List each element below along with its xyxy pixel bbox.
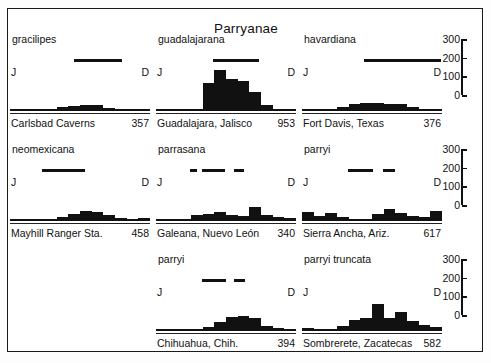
- locality-row: Guadalajara, Jalisco953: [156, 116, 296, 132]
- y-axis-tick: [462, 39, 467, 41]
- y-axis-line: [461, 259, 463, 315]
- y-axis-line: [461, 149, 463, 205]
- locality-row: Mayhill Ranger Sta.458: [10, 226, 150, 242]
- bloom-period-bar: [42, 169, 85, 172]
- species-name: guadalajarana: [158, 33, 225, 45]
- panel-divider: [156, 223, 296, 224]
- figure-plate: Parryanae gracilipesJDCarlsbad Caverns35…: [0, 0, 491, 363]
- record-count: 617: [423, 227, 441, 239]
- locality-row: Carlsbad Caverns357: [10, 116, 150, 132]
- y-axis-tick-label: 100: [442, 180, 460, 192]
- monthly-histogram: [156, 283, 296, 331]
- bloom-period-bar: [74, 59, 122, 62]
- y-axis-tick: [462, 76, 467, 78]
- locality-name: Sombrerete, Zacatecas: [303, 337, 412, 349]
- bloom-period-bar: [348, 169, 373, 172]
- y-axis-tick: [462, 168, 467, 170]
- species-name: gracilipes: [12, 33, 56, 45]
- y-axis-row-3: 3002001000: [432, 253, 486, 323]
- y-axis-tick-label: 200: [442, 162, 460, 174]
- bloom-period-bar: [202, 279, 226, 282]
- y-axis-row-1: 3002001000: [432, 33, 486, 103]
- panel-divider: [302, 333, 442, 334]
- histogram-panel: parryiJDSierra Ancha, Ariz.617: [302, 143, 442, 243]
- species-name: parryi: [158, 253, 184, 265]
- y-axis-line: [461, 39, 463, 95]
- histogram-baseline: [10, 109, 150, 111]
- histogram-panel: parryi truncataJDSombrerete, Zacatecas58…: [302, 253, 442, 353]
- record-count: 394: [277, 337, 295, 349]
- monthly-histogram: [156, 173, 296, 221]
- locality-row: Galeana, Nuevo León340: [156, 226, 296, 242]
- y-axis-tick-label: 300: [442, 253, 460, 265]
- histogram-baseline: [156, 219, 296, 221]
- bloom-period-bar: [234, 279, 245, 282]
- locality-row: Chihuahua, Chih.394: [156, 336, 296, 352]
- locality-name: Sierra Ancha, Ariz.: [303, 227, 389, 239]
- species-name: havardiana: [304, 33, 356, 45]
- record-count: 376: [423, 117, 441, 129]
- y-axis-tick: [462, 315, 467, 317]
- monthly-histogram: [302, 173, 442, 221]
- locality-row: Sierra Ancha, Ariz.617: [302, 226, 442, 242]
- y-axis-tick: [462, 205, 467, 207]
- histogram-baseline: [302, 219, 442, 221]
- monthly-histogram: [302, 63, 442, 111]
- locality-row: Sombrerete, Zacatecas582: [302, 336, 442, 352]
- bloom-period-bar: [234, 169, 244, 172]
- y-axis-tick-label: 200: [442, 272, 460, 284]
- y-axis-tick: [462, 296, 467, 298]
- bloom-period-bar: [364, 59, 440, 62]
- panel-divider: [10, 223, 150, 224]
- histogram-baseline: [156, 329, 296, 331]
- y-axis-tick-label: 0: [454, 309, 460, 321]
- monthly-histogram: [10, 173, 150, 221]
- y-axis-tick: [462, 186, 467, 188]
- monthly-histogram: [10, 63, 150, 111]
- y-axis-tick: [462, 149, 467, 151]
- histogram-panel: neomexicanaJDMayhill Ranger Sta.458: [10, 143, 150, 243]
- y-axis-tick-label: 100: [442, 70, 460, 82]
- y-axis-tick-label: 0: [454, 89, 460, 101]
- record-count: 357: [131, 117, 149, 129]
- record-count: 458: [131, 227, 149, 239]
- panel-divider: [302, 113, 442, 114]
- locality-name: Chihuahua, Chih.: [157, 337, 238, 349]
- histogram-baseline: [10, 219, 150, 221]
- locality-row: Fort Davis, Texas376: [302, 116, 442, 132]
- histogram-panel: guadalajaranaJDGuadalajara, Jalisco953: [156, 33, 296, 133]
- histogram-bar: [238, 81, 250, 111]
- species-name: parryi truncata: [304, 253, 371, 265]
- species-name: neomexicana: [12, 143, 74, 155]
- locality-name: Guadalajara, Jalisco: [157, 117, 252, 129]
- record-count: 340: [277, 227, 295, 239]
- histogram-baseline: [302, 329, 442, 331]
- histogram-bar: [214, 70, 226, 111]
- species-name: parrasana: [158, 143, 205, 155]
- histogram-bar: [226, 79, 238, 111]
- histogram-baseline: [302, 109, 442, 111]
- panel-divider: [156, 333, 296, 334]
- histogram-panel: gracilipesJDCarlsbad Caverns357: [10, 33, 150, 133]
- panel-divider: [10, 113, 150, 114]
- bloom-period-bar: [383, 169, 395, 172]
- y-axis-tick-label: 0: [454, 199, 460, 211]
- y-axis-tick-label: 200: [442, 52, 460, 64]
- locality-name: Fort Davis, Texas: [303, 117, 384, 129]
- histogram-panel: parryiJDChihuahua, Chih.394: [156, 253, 296, 353]
- record-count: 953: [277, 117, 295, 129]
- histogram-baseline: [156, 109, 296, 111]
- histogram-panel: havardianaJDFort Davis, Texas376: [302, 33, 442, 133]
- y-axis-row-2: 3002001000: [432, 143, 486, 213]
- y-axis-tick-label: 100: [442, 290, 460, 302]
- panel-divider: [302, 223, 442, 224]
- histogram-bar: [203, 83, 215, 111]
- record-count: 582: [423, 337, 441, 349]
- bloom-period-bar: [202, 169, 224, 172]
- panel-divider: [156, 113, 296, 114]
- y-axis-tick: [462, 259, 467, 261]
- bloom-period-bar: [190, 169, 197, 172]
- y-axis-tick: [462, 58, 467, 60]
- panel-grid: gracilipesJDCarlsbad Caverns357guadalaja…: [10, 33, 430, 333]
- species-name: parryi: [304, 143, 330, 155]
